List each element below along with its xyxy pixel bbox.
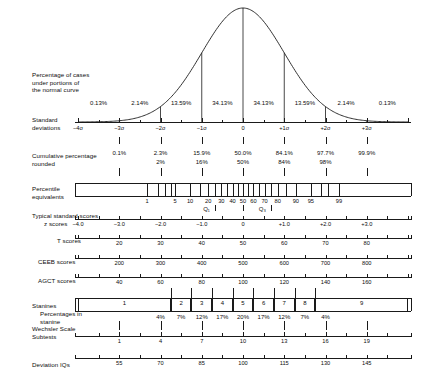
wechsler-tick bbox=[264, 333, 265, 337]
z-scores-tick bbox=[305, 216, 306, 220]
stanine-boundary-tick bbox=[253, 288, 254, 298]
percentile-minor-tick bbox=[200, 183, 201, 196]
standard-deviations-axis bbox=[75, 122, 411, 123]
t-scores-value: 50 bbox=[223, 240, 263, 246]
agct-scores-tick bbox=[408, 274, 409, 278]
wechsler-major-tick bbox=[119, 332, 120, 336]
quartile-label: Q₃ bbox=[259, 206, 287, 212]
cumulative-percentage-upper-tick bbox=[284, 137, 285, 144]
ceeb-scores-tick bbox=[119, 255, 120, 259]
t-scores-value: 20 bbox=[99, 240, 139, 246]
cumulative-percentage-lower-tick bbox=[284, 168, 285, 176]
percentile-minor-tick bbox=[259, 183, 260, 196]
z-scores-tick bbox=[202, 216, 203, 220]
wechsler-tick bbox=[387, 333, 388, 337]
t-scores-value: 70 bbox=[306, 240, 346, 246]
ceeb-scores-tick bbox=[161, 255, 162, 259]
cumulative-percentage-exact: 50.0% bbox=[221, 150, 265, 157]
standard-deviations-value: −3σ bbox=[99, 125, 139, 131]
z-scores-right-cap bbox=[411, 216, 412, 220]
percentile-band-right-edge bbox=[411, 183, 412, 196]
t-scores-tick bbox=[346, 235, 347, 239]
ceeb-scores-axis bbox=[75, 258, 411, 259]
percentile-value: 1 bbox=[133, 198, 161, 204]
stanine-cell: 6 bbox=[253, 298, 274, 311]
percentile-value: 99 bbox=[325, 198, 353, 204]
z-scores-tick bbox=[408, 216, 409, 220]
standard-deviations-tick bbox=[243, 118, 244, 122]
cumulative-percentage-upper-tick bbox=[243, 137, 244, 144]
z-scores-tick bbox=[284, 216, 285, 220]
percentile-tick bbox=[208, 183, 209, 196]
z-scores-tick bbox=[140, 216, 141, 220]
normal-curve-drawing bbox=[0, 0, 422, 385]
wechsler-value: 16 bbox=[306, 338, 346, 344]
stanine-boundary-tick bbox=[274, 288, 275, 298]
ceeb-scores-tick bbox=[387, 255, 388, 259]
percentile-tick bbox=[311, 183, 312, 196]
percentage-of-cases-label: 2.14% bbox=[324, 100, 368, 107]
ceeb-scores-value: 800 bbox=[347, 260, 387, 266]
t-scores-tick bbox=[202, 235, 203, 239]
agct-scores-value: 120 bbox=[264, 279, 304, 285]
cumulative-percentage-rounded: 2% bbox=[139, 159, 183, 166]
agct-right-cap bbox=[411, 274, 412, 278]
ceeb-scores-tick bbox=[140, 255, 141, 259]
stanine-cell: 4 bbox=[212, 298, 233, 311]
deviation-iq-left-cap bbox=[75, 355, 76, 359]
agct-scores-value: 100 bbox=[223, 279, 263, 285]
agct-scores-axis bbox=[75, 277, 411, 278]
percentile-minor-tick bbox=[215, 183, 216, 196]
t-scores-tick bbox=[387, 235, 388, 239]
ceeb-scores-tick bbox=[99, 255, 100, 259]
z-scores-tick bbox=[181, 216, 182, 220]
quartile-label: Q₁ bbox=[203, 206, 231, 212]
ceeb-scores-tick bbox=[326, 255, 327, 259]
ceeb-scores-value: 700 bbox=[306, 260, 346, 266]
standard-deviations-tick bbox=[408, 118, 409, 122]
cumulative-percentage-exact: 84.1% bbox=[262, 150, 306, 157]
z-scores-value: −1.0 bbox=[182, 221, 222, 227]
cumulative-percentage-rounded: 50% bbox=[221, 159, 265, 166]
ceeb-left-cap bbox=[75, 255, 76, 259]
agct-scores-tick bbox=[243, 274, 244, 278]
standard-deviations-value: +2σ bbox=[306, 125, 346, 131]
wechsler-major-tick bbox=[326, 332, 327, 336]
t-scores-tick bbox=[161, 235, 162, 239]
t-scores-value: 30 bbox=[141, 240, 181, 246]
agct-scores-tick bbox=[78, 274, 79, 278]
wechsler-major-tick bbox=[284, 332, 285, 336]
t-scores-tick bbox=[181, 235, 182, 239]
wechsler-tick bbox=[305, 333, 306, 337]
cumulative-percentage-rounded: 16% bbox=[180, 159, 224, 166]
percentile-minor-tick bbox=[321, 183, 322, 196]
wechsler-upper-tick bbox=[119, 321, 120, 330]
agct-scores-tick bbox=[284, 274, 285, 278]
wechsler-upper-tick bbox=[367, 321, 368, 330]
agct-scores-tick bbox=[202, 274, 203, 278]
percentile-tick bbox=[175, 183, 176, 196]
percentile-tick bbox=[253, 183, 254, 196]
standard-deviations-tick bbox=[202, 118, 203, 122]
agct-scores-tick bbox=[222, 274, 223, 278]
standard-deviations-tick bbox=[346, 120, 347, 123]
standard-deviations-tick bbox=[264, 120, 265, 123]
agct-scores-tick bbox=[264, 274, 265, 278]
deviation-iq-axis bbox=[75, 358, 411, 359]
ceeb-scores-tick bbox=[264, 255, 265, 259]
percentile-minor-tick bbox=[171, 183, 172, 196]
agct-scores-tick bbox=[140, 274, 141, 278]
stanine-cell: 3 bbox=[191, 298, 212, 311]
ceeb-scores-tick bbox=[305, 255, 306, 259]
wechsler-tick bbox=[346, 333, 347, 337]
standard-deviations-tick bbox=[161, 118, 162, 122]
ceeb-scores-value: 600 bbox=[264, 260, 304, 266]
z-scores-value: +3.0 bbox=[347, 221, 387, 227]
z-scores-value: −2.0 bbox=[141, 221, 181, 227]
deviation-iq-tick bbox=[284, 355, 285, 359]
agct-scores-tick bbox=[346, 274, 347, 278]
wechsler-upper-tick bbox=[161, 321, 162, 330]
t-scores-tick bbox=[78, 235, 79, 239]
agct-scores-tick bbox=[99, 274, 100, 278]
wechsler-major-tick bbox=[243, 332, 244, 336]
